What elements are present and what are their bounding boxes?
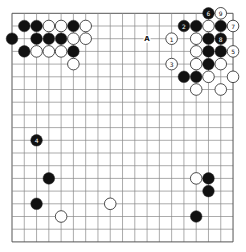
black-stone — [190, 211, 202, 223]
white-stone-icon — [43, 20, 55, 32]
black-stone — [31, 20, 43, 32]
black-stone-icon — [18, 20, 30, 32]
black-stone-icon — [178, 71, 190, 83]
black-stone-icon — [68, 46, 80, 58]
black-stone-icon — [55, 33, 67, 45]
white-stone-icon — [227, 71, 239, 83]
white-stone-icon — [68, 33, 80, 45]
white-stone-icon — [215, 84, 227, 96]
black-stone-icon — [43, 33, 55, 45]
black-stone-icon — [190, 71, 202, 83]
black-stone-icon — [31, 20, 43, 32]
white-stone — [68, 58, 80, 70]
move-number-label: 4 — [35, 137, 39, 144]
black-stone — [190, 71, 202, 83]
black-stone — [215, 46, 227, 58]
white-stone: 9 — [215, 8, 227, 20]
white-stone-icon — [80, 20, 92, 32]
board-markers: A — [144, 35, 151, 44]
white-stone — [31, 46, 43, 58]
move-number-label: 8 — [219, 36, 223, 43]
black-stone — [18, 46, 30, 58]
white-stone: 5 — [227, 46, 239, 58]
white-stone-icon — [80, 33, 92, 45]
white-stone — [190, 46, 202, 58]
white-stone — [190, 58, 202, 70]
black-stone — [203, 46, 215, 58]
white-stone-icon — [190, 33, 202, 45]
white-stone — [55, 20, 67, 32]
black-stone-icon — [68, 20, 80, 32]
black-stone-icon — [190, 211, 202, 223]
white-stone-icon — [215, 58, 227, 70]
black-stone — [43, 33, 55, 45]
black-stone — [6, 33, 18, 45]
black-stone-icon — [31, 33, 43, 45]
black-stone: 4 — [31, 135, 43, 147]
black-stone — [31, 33, 43, 45]
white-stone-icon — [190, 173, 202, 185]
black-stone — [203, 33, 215, 45]
white-stone — [227, 71, 239, 83]
black-stone: 8 — [215, 33, 227, 45]
white-stone-icon — [68, 58, 80, 70]
black-stone — [203, 185, 215, 197]
white-stone-icon — [43, 46, 55, 58]
white-stone — [55, 211, 67, 223]
white-stone-icon — [31, 46, 43, 58]
white-stone — [80, 33, 92, 45]
black-stone: 2 — [178, 20, 190, 32]
white-stone — [43, 46, 55, 58]
black-stone-icon — [203, 46, 215, 58]
white-stone-icon — [55, 211, 67, 223]
move-number-label: 2 — [182, 23, 186, 30]
white-stone-icon — [55, 46, 67, 58]
black-stone-icon — [31, 198, 43, 210]
black-stone — [215, 20, 227, 32]
white-stone — [104, 198, 116, 210]
move-number-label: 6 — [207, 10, 211, 17]
white-stone-icon — [55, 20, 67, 32]
point-marker-label: A — [144, 35, 150, 43]
white-stone-icon — [190, 58, 202, 70]
black-stone-icon — [203, 185, 215, 197]
black-stone — [68, 46, 80, 58]
white-stone-icon — [190, 46, 202, 58]
black-stone-icon — [190, 20, 202, 32]
black-stone — [43, 173, 55, 185]
white-stone-icon — [203, 20, 215, 32]
move-number-label: 3 — [170, 61, 174, 68]
black-stone-icon — [203, 58, 215, 70]
move-number-label: 1 — [170, 36, 174, 43]
black-stone-icon — [43, 173, 55, 185]
black-stone — [55, 33, 67, 45]
black-stone — [178, 71, 190, 83]
black-stone — [18, 20, 30, 32]
black-stone: 6 — [203, 8, 215, 20]
white-stone — [55, 46, 67, 58]
move-number-label: 5 — [231, 48, 235, 55]
white-stone — [215, 58, 227, 70]
white-stone — [190, 33, 202, 45]
white-stone — [203, 71, 215, 83]
white-stone-icon — [203, 71, 215, 83]
go-board-diagram: A 692718534 — [0, 0, 246, 252]
white-stone — [203, 20, 215, 32]
black-stone-icon — [215, 46, 227, 58]
white-stone: 7 — [227, 20, 239, 32]
white-stone — [190, 173, 202, 185]
white-stone — [80, 20, 92, 32]
black-stone-icon — [215, 20, 227, 32]
black-stone — [203, 173, 215, 185]
black-stone — [31, 198, 43, 210]
black-stone — [68, 20, 80, 32]
white-stone — [215, 84, 227, 96]
black-stone-icon — [203, 33, 215, 45]
move-number-label: 7 — [231, 23, 235, 30]
white-stone-icon — [190, 84, 202, 96]
white-stone — [43, 20, 55, 32]
black-stone-icon — [203, 173, 215, 185]
black-stone-icon — [18, 46, 30, 58]
black-stone-icon — [6, 33, 18, 45]
white-stone: 3 — [166, 58, 178, 70]
